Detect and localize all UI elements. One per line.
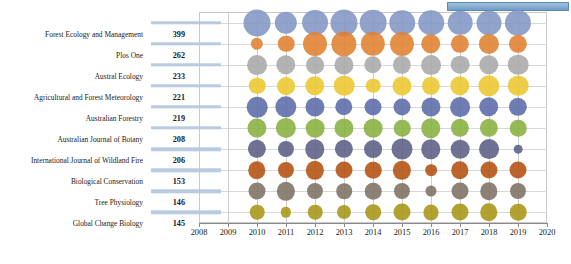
x-axis-tick-label: 2019 [510,229,527,237]
category-total-value: 146 [163,199,185,207]
bubble-marker [334,76,355,97]
x-axis-tick-label: 2020 [539,229,556,237]
x-axis-tick [315,223,316,227]
bubble-marker [425,164,437,176]
x-axis-tick-label: 2015 [394,229,411,237]
bubble-marker [508,54,529,75]
category-label: Biological Conservation [71,179,143,186]
x-axis-tick [199,223,200,227]
bubble-marker [394,204,411,221]
row-connector-bar [151,84,221,87]
category-label: Australian Journal of Botany [57,136,143,143]
bubble-marker [334,119,353,138]
bubble-marker [451,140,470,159]
category-label: Forest Ecology and Management [45,31,143,38]
x-axis-tick-label: 2018 [481,229,498,237]
bubble-marker [366,79,381,94]
bubble-marker [278,162,294,178]
bubble-marker [510,162,527,179]
category-total-value: 219 [163,115,185,123]
category-total-value: 145 [163,220,185,228]
category-label: International Journal of Wildland Fire [31,157,143,164]
row-connector-bar [151,63,221,66]
bubble-marker [477,10,502,35]
bubble-marker [392,139,413,160]
bubble-marker [390,32,414,56]
bubble-marker [247,119,266,138]
bubble-marker [365,98,382,115]
row-connector-bar [151,105,221,108]
bubble-marker [392,76,411,95]
bubble-marker [334,55,353,74]
bubble-marker [278,35,295,52]
x-axis-tick-label: 2009 [220,229,237,237]
category-total-value: 153 [163,178,185,186]
bubble-marker [364,140,382,158]
bubble-marker [249,183,266,200]
category-total-value: 262 [163,52,185,60]
bubble-marker [394,183,410,199]
category-total-value: 206 [163,157,185,165]
bubble-marker [250,205,265,220]
x-axis-tick [518,223,519,227]
x-axis-tick [460,223,461,227]
row-connector-bar [151,42,221,45]
x-axis-tick-label: 2017 [452,229,469,237]
row-connector-bar [151,147,221,150]
x-axis-tick [373,223,374,227]
x-axis-tick [344,223,345,227]
x-axis-tick-label: 2013 [336,229,353,237]
category-label: Agricultural and Forest Meteorology [34,94,143,101]
x-axis-tick [286,223,287,227]
bubble-marker [508,76,529,97]
bubble-marker [247,97,268,118]
bubble-marker [514,145,523,154]
x-axis-tick-label: 2014 [365,229,382,237]
row-connector-bar [151,126,221,129]
bubble-marker [394,120,411,137]
bubble-marker [365,183,382,200]
bubble-marker [305,97,324,116]
category-label: Plos One [116,52,143,59]
bubble-marker [336,184,352,200]
bubble-marker [365,162,382,179]
bubble-marker [244,9,271,36]
category-total-value: 233 [163,73,185,81]
row-connector-bar [151,211,221,214]
bubble-marker [481,162,498,179]
row-connector-bar [151,21,221,24]
bubble-marker [510,183,526,199]
bubble-marker [418,10,444,36]
x-axis-tick [228,223,229,227]
x-axis-tick-label: 2008 [191,229,208,237]
x-axis-tick-label: 2012 [307,229,324,237]
row-connector-bar [151,169,221,172]
category-total-value: 208 [163,136,185,144]
bubble-marker [421,97,440,116]
bubble-marker [336,162,353,179]
bubble-marker [479,139,499,159]
bubble-marker [425,186,436,197]
x-axis-tick-label: 2011 [278,229,294,237]
bubble-marker [365,205,381,221]
x-axis-tick-label: 2010 [249,229,266,237]
bubble-marker [278,141,294,157]
bubble-marker [450,97,470,117]
bubble-marker [448,10,473,35]
bubble-marker [452,204,469,221]
x-axis-tick [431,223,432,227]
bubble-marker [306,56,324,74]
bubble-marker [277,77,295,95]
bubble-marker [364,119,383,138]
bubble-marker [394,98,411,115]
bubble-marker [451,55,470,74]
x-axis-tick-label: 2016 [423,229,440,237]
x-axis-tick [402,223,403,227]
bubble-marker [337,205,351,219]
bubble-marker [247,55,267,75]
bubble-marker [307,183,323,199]
x-axis-tick [257,223,258,227]
bubble-marker [308,205,323,220]
plot-area [199,12,547,223]
window-title-bar [447,2,569,11]
